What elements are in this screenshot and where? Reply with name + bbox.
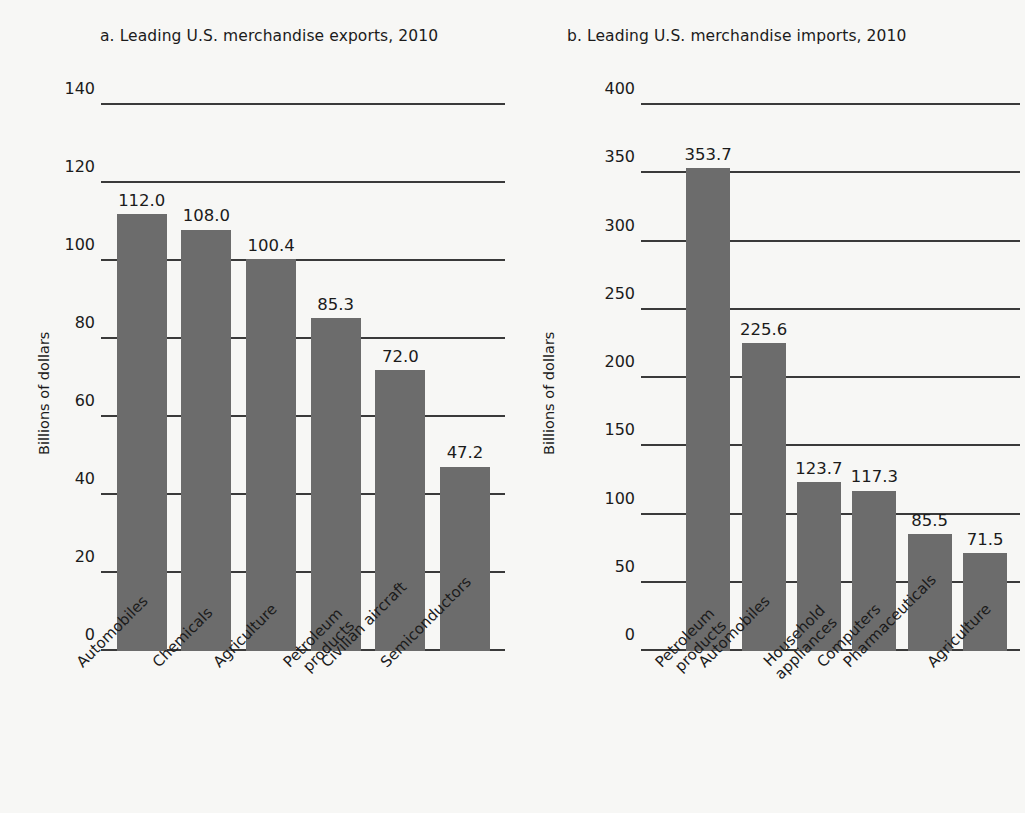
y-axis-title-imports: Billions of dollars xyxy=(541,332,557,455)
y-tick-label-exports-140: 140 xyxy=(64,81,95,97)
y-tick-imports-50 xyxy=(641,581,652,583)
y-tick-label-exports-80: 80 xyxy=(75,315,95,331)
y-tick-exports-20 xyxy=(101,571,112,573)
bar-slot[interactable]: 353.7Petroleumproducts xyxy=(686,105,730,651)
bar-value-label: 47.2 xyxy=(447,445,484,462)
y-tick-imports-250 xyxy=(641,308,652,310)
bar[interactable] xyxy=(117,214,167,651)
bar-value-label: 225.6 xyxy=(740,322,787,339)
bar-slot[interactable]: 108.0Chemicals xyxy=(181,105,231,651)
bar-slot[interactable]: 71.5Agriculture xyxy=(963,105,1007,651)
y-tick-imports-200 xyxy=(641,376,652,378)
bar[interactable] xyxy=(440,467,490,651)
chart-title-imports: b. Leading U.S. merchandise imports, 201… xyxy=(567,27,906,45)
y-tick-imports-0 xyxy=(641,649,652,651)
y-tick-exports-60 xyxy=(101,415,112,417)
chart-page: a. Leading U.S. merchandise exports, 201… xyxy=(0,0,1025,813)
bar-group-imports: 353.7Petroleumproducts225.6Automobiles12… xyxy=(652,105,1020,651)
bar-slot[interactable]: 112.0Automobiles xyxy=(117,105,167,651)
bar-value-label: 85.3 xyxy=(317,297,354,314)
y-tick-label-imports-250: 250 xyxy=(604,286,635,302)
bar-value-label: 100.4 xyxy=(247,238,294,255)
bar-value-label: 353.7 xyxy=(685,147,732,164)
bar[interactable] xyxy=(311,318,361,651)
bar-slot[interactable]: 117.3Computers xyxy=(852,105,896,651)
y-tick-exports-100 xyxy=(101,259,112,261)
bar-slot[interactable]: 47.2Semiconductors xyxy=(440,105,490,651)
bar[interactable] xyxy=(246,259,296,651)
plot-area-imports: 050100150200250300350400 353.7Petroleump… xyxy=(652,105,1020,651)
y-tick-label-imports-0: 0 xyxy=(625,627,635,643)
y-axis-title-exports: Billions of dollars xyxy=(36,332,52,455)
bar-slot[interactable]: 85.5Pharmaceuticals xyxy=(908,105,952,651)
bar[interactable] xyxy=(686,168,730,651)
bar[interactable] xyxy=(181,230,231,651)
bar-value-label: 72.0 xyxy=(382,349,419,366)
y-tick-label-exports-60: 60 xyxy=(75,393,95,409)
y-tick-label-imports-50: 50 xyxy=(615,559,635,575)
bar-value-label: 71.5 xyxy=(967,532,1004,549)
bar-value-label: 85.5 xyxy=(911,513,948,530)
y-tick-imports-150 xyxy=(641,444,652,446)
bar-value-label: 112.0 xyxy=(118,193,165,210)
bar-slot[interactable]: 123.7Householdappliances xyxy=(797,105,841,651)
y-tick-imports-300 xyxy=(641,240,652,242)
y-tick-label-exports-20: 20 xyxy=(75,549,95,565)
chart-panel-exports: a. Leading U.S. merchandise exports, 201… xyxy=(0,0,525,813)
y-tick-label-exports-100: 100 xyxy=(64,237,95,253)
bar-group-exports: 112.0Automobiles108.0Chemicals100.4Agric… xyxy=(112,105,505,651)
y-tick-label-imports-200: 200 xyxy=(604,354,635,370)
y-tick-label-imports-300: 300 xyxy=(604,218,635,234)
chart-panel-imports: b. Leading U.S. merchandise imports, 201… xyxy=(525,0,1025,813)
y-tick-label-imports-150: 150 xyxy=(604,422,635,438)
y-tick-exports-120 xyxy=(101,181,112,183)
bar-value-label: 123.7 xyxy=(795,461,842,478)
bar-slot[interactable]: 100.4Agriculture xyxy=(246,105,296,651)
y-tick-exports-140 xyxy=(101,103,112,105)
y-tick-label-imports-350: 350 xyxy=(604,149,635,165)
plot-area-exports: 020406080100120140 112.0Automobiles108.0… xyxy=(112,105,505,651)
bar-value-label: 108.0 xyxy=(183,208,230,225)
bar-slot[interactable]: 225.6Automobiles xyxy=(742,105,786,651)
y-tick-imports-350 xyxy=(641,171,652,173)
bar-value-label: 117.3 xyxy=(851,469,898,486)
y-tick-label-imports-400: 400 xyxy=(604,81,635,97)
y-tick-imports-400 xyxy=(641,103,652,105)
bar-slot[interactable]: 85.3Petroleumproducts xyxy=(311,105,361,651)
y-tick-exports-80 xyxy=(101,337,112,339)
chart-title-exports: a. Leading U.S. merchandise exports, 201… xyxy=(100,27,438,45)
y-tick-imports-100 xyxy=(641,513,652,515)
y-tick-label-imports-100: 100 xyxy=(604,491,635,507)
y-tick-label-exports-120: 120 xyxy=(64,159,95,175)
y-tick-label-exports-40: 40 xyxy=(75,471,95,487)
y-tick-exports-40 xyxy=(101,493,112,495)
bar-slot[interactable]: 72.0Civilian aircraft xyxy=(375,105,425,651)
